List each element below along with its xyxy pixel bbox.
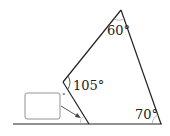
edge-top-to-left-vertex	[63, 10, 121, 82]
degree-symbol: °	[62, 92, 66, 100]
angle-arc-left	[68, 76, 70, 89]
angle-arc-bottom-middle	[80, 116, 84, 124]
angle-label-105: 105°	[73, 78, 104, 93]
angle-label-60: 60°	[107, 23, 130, 38]
arrow-head-icon	[75, 113, 81, 118]
angle-arc-top	[114, 18, 124, 20]
answer-box[interactable]	[25, 93, 60, 119]
angle-label-70: 70°	[135, 107, 158, 122]
geometry-diagram: 60° 105° 70° °	[0, 0, 170, 136]
